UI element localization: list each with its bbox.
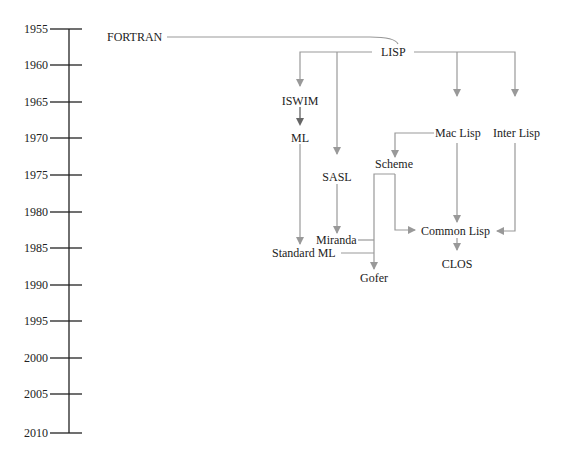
year-label: 1980: [24, 205, 48, 219]
year-label: 1965: [24, 95, 48, 109]
edge-fortran-lisp: [167, 37, 398, 44]
year-label: 1995: [24, 314, 48, 328]
timeline-axis: 1955 1960 1965 1970 1975 1980 1985 1990 …: [24, 22, 82, 440]
edge-maclisp-scheme: [395, 133, 434, 157]
year-label: 1975: [24, 168, 48, 182]
node-iswim: ISWIM: [282, 94, 319, 108]
node-lisp: LISP: [381, 45, 406, 59]
edge-scheme-gofer: [374, 174, 395, 269]
node-gofer: Gofer: [360, 271, 388, 285]
year-label: 2000: [24, 351, 48, 365]
year-label: 2010: [24, 426, 48, 440]
node-fortran: FORTRAN: [107, 30, 163, 44]
node-sasl: SASL: [322, 170, 351, 184]
node-miranda: Miranda: [316, 233, 357, 247]
node-inter-lisp: Inter Lisp: [493, 126, 540, 140]
node-clos: CLOS: [442, 257, 473, 271]
edge-scheme-commonlisp: [395, 174, 415, 230]
year-label: 1985: [24, 241, 48, 255]
nodes: FORTRAN LISP ISWIM ML SASL Mac Lisp Inte…: [107, 30, 540, 285]
node-ml: ML: [291, 131, 309, 145]
edge-lisp-iswim: [300, 52, 372, 86]
node-standard-ml: Standard ML: [272, 246, 336, 260]
year-label: 1970: [24, 131, 48, 145]
year-label: 2005: [24, 387, 48, 401]
edge-interlisp-commonlisp: [497, 143, 515, 231]
year-label: 1960: [24, 58, 48, 72]
node-common-lisp: Common Lisp: [421, 224, 490, 238]
year-ticks: [50, 29, 82, 433]
node-scheme: Scheme: [375, 157, 413, 171]
year-label: 1990: [24, 278, 48, 292]
language-genealogy-diagram: 1955 1960 1965 1970 1975 1980 1985 1990 …: [0, 0, 561, 465]
year-label: 1955: [24, 22, 48, 36]
node-mac-lisp: Mac Lisp: [435, 126, 481, 140]
edge-lisp-interlisp: [414, 52, 515, 96]
